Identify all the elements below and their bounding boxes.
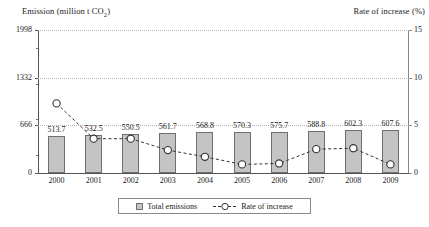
- legend-item-total-emissions: Total emissions: [136, 202, 197, 211]
- rate-of-increase-line: [0, 0, 429, 227]
- legend-line-marker-icon: [213, 202, 237, 210]
- legend-bar-swatch-icon: [136, 203, 143, 210]
- legend-label-rate-of-increase: Rate of increase: [241, 202, 293, 211]
- rate-data-point-marker: [90, 135, 97, 142]
- emissions-chart: Emission (million t CO2) Rate of increas…: [0, 0, 429, 227]
- legend-item-rate-of-increase: Rate of increase: [213, 202, 293, 211]
- rate-data-point-marker: [201, 153, 208, 160]
- rate-data-point-marker: [350, 145, 357, 152]
- chart-legend: Total emissions Rate of increase: [118, 198, 311, 214]
- rate-data-point-marker: [238, 161, 245, 168]
- rate-data-point-marker: [276, 160, 283, 167]
- legend-label-total-emissions: Total emissions: [147, 202, 197, 211]
- rate-data-point-marker: [387, 161, 394, 168]
- rate-line-path: [57, 103, 391, 164]
- rate-data-point-marker: [53, 100, 60, 107]
- rate-data-point-marker: [127, 135, 134, 142]
- rate-data-point-marker: [313, 146, 320, 153]
- rate-data-point-marker: [164, 147, 171, 154]
